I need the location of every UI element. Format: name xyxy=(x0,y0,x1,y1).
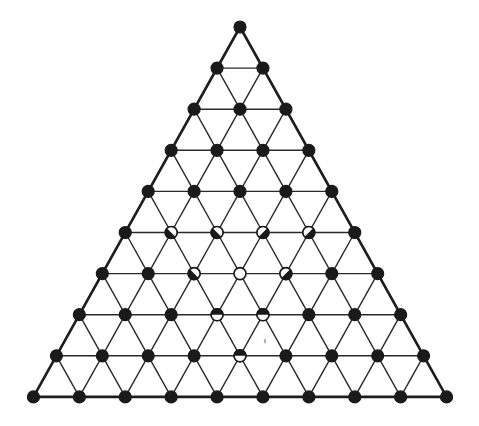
lattice-edge xyxy=(263,356,286,397)
filled-node xyxy=(165,391,177,403)
lattice-edge xyxy=(240,191,263,232)
lattice-edge xyxy=(102,356,125,397)
lattice-edge xyxy=(263,274,286,315)
lattice-edge xyxy=(56,356,79,397)
half-filled-node xyxy=(280,268,292,280)
half-filled-node xyxy=(257,227,269,239)
lattice-edges xyxy=(33,27,446,397)
filled-node xyxy=(119,227,131,239)
half-filled-node xyxy=(188,268,200,280)
lattice-edge xyxy=(355,315,378,356)
filled-node xyxy=(73,309,85,321)
lattice-edge xyxy=(286,315,309,356)
lattice-edge xyxy=(171,233,194,274)
filled-node xyxy=(280,185,292,197)
lattice-edge xyxy=(125,233,148,274)
filled-node xyxy=(234,103,246,115)
filled-node xyxy=(303,391,315,403)
triangular-lattice-diagram xyxy=(0,0,479,426)
lattice-edge xyxy=(148,233,171,274)
half-filled-node xyxy=(234,350,246,362)
filled-node xyxy=(303,309,315,321)
filled-node xyxy=(119,391,131,403)
filled-node xyxy=(326,350,338,362)
filled-node xyxy=(234,185,246,197)
lattice-edge xyxy=(125,356,148,397)
lattice-edge xyxy=(79,356,102,397)
empty-node xyxy=(234,268,246,280)
lattice-edge xyxy=(263,315,286,356)
filled-node xyxy=(165,309,177,321)
filled-node xyxy=(211,144,223,156)
lattice-edge xyxy=(79,315,102,356)
lattice-edge xyxy=(217,274,240,315)
half-filled-node xyxy=(211,309,223,321)
filled-node xyxy=(418,350,430,362)
half-filled-node xyxy=(303,227,315,239)
lattice-edge xyxy=(217,191,240,232)
lattice-edge xyxy=(171,315,194,356)
filled-node xyxy=(303,144,315,156)
filled-node xyxy=(211,391,223,403)
filled-node xyxy=(257,144,269,156)
lattice-edge xyxy=(240,68,263,109)
filled-node xyxy=(50,350,62,362)
filled-node xyxy=(142,268,154,280)
filled-node xyxy=(395,309,407,321)
lattice-edge xyxy=(171,356,194,397)
filled-node xyxy=(188,103,200,115)
lattice-edge xyxy=(217,356,240,397)
half-filled-node xyxy=(165,227,177,239)
filled-node xyxy=(349,391,361,403)
lattice-edge xyxy=(194,315,217,356)
half-filled-node xyxy=(257,309,269,321)
lattice-edge xyxy=(286,356,309,397)
lattice-edge xyxy=(102,315,125,356)
filled-node xyxy=(280,350,292,362)
lattice-edge xyxy=(355,356,378,397)
lattice-edge xyxy=(378,315,401,356)
lattice-canvas xyxy=(0,0,479,426)
filled-node xyxy=(142,185,154,197)
lattice-edge xyxy=(309,356,332,397)
filled-node xyxy=(280,103,292,115)
filled-node xyxy=(142,350,154,362)
lattice-edge xyxy=(240,315,263,356)
lattice-edge xyxy=(125,315,148,356)
lattice-edge xyxy=(194,356,217,397)
lattice-edge xyxy=(171,274,194,315)
lattice-edge xyxy=(309,191,332,232)
filled-node xyxy=(188,350,200,362)
speck-mark xyxy=(264,338,266,343)
lattice-edge xyxy=(217,109,240,150)
lattice-edge xyxy=(217,68,240,109)
triangle-outline xyxy=(33,27,446,397)
lattice-edge xyxy=(194,191,217,232)
lattice-edge xyxy=(148,274,171,315)
lattice-edge xyxy=(263,150,286,191)
lattice-edge xyxy=(125,274,148,315)
lattice-edge xyxy=(217,233,240,274)
lattice-edge xyxy=(401,356,424,397)
filled-node xyxy=(73,391,85,403)
lattice-edge xyxy=(102,274,125,315)
scan-speck xyxy=(264,338,266,343)
filled-node xyxy=(441,391,453,403)
lattice-edge xyxy=(332,274,355,315)
lattice-edge xyxy=(355,274,378,315)
lattice-edge xyxy=(286,233,309,274)
lattice-edge xyxy=(263,109,286,150)
half-filled-node xyxy=(211,227,223,239)
lattice-edge xyxy=(194,109,217,150)
lattice-edge xyxy=(194,150,217,191)
lattice-edge xyxy=(263,191,286,232)
lattice-edge xyxy=(148,356,171,397)
filled-node xyxy=(257,391,269,403)
lattice-edge xyxy=(148,191,171,232)
lattice-edge xyxy=(309,274,332,315)
lattice-nodes xyxy=(27,21,452,403)
filled-node xyxy=(188,185,200,197)
filled-node xyxy=(349,309,361,321)
lattice-edge xyxy=(217,150,240,191)
lattice-edge xyxy=(286,150,309,191)
